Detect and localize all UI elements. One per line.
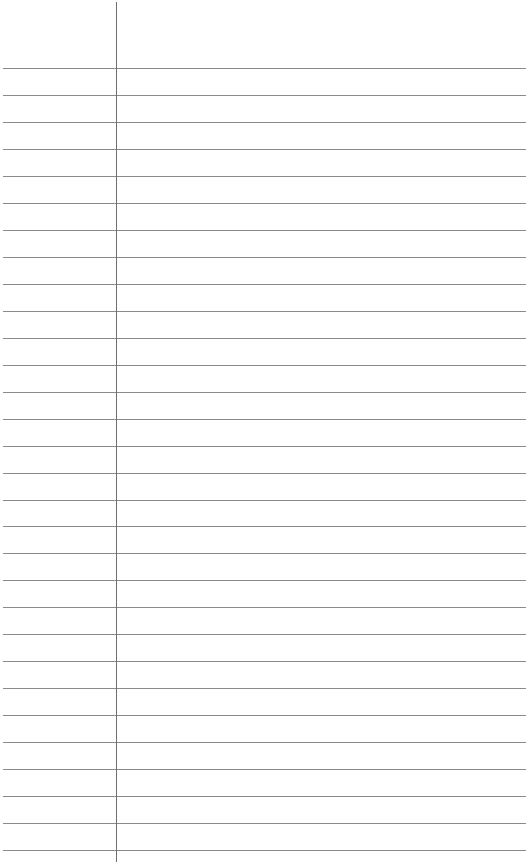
ruled-line (3, 365, 526, 366)
ruled-line (3, 661, 526, 662)
ruled-line (3, 338, 526, 339)
ruled-line (3, 419, 526, 420)
ruled-line (3, 311, 526, 312)
lined-paper (0, 0, 528, 865)
ruled-line (3, 796, 526, 797)
ruled-line (3, 769, 526, 770)
margin-line (116, 2, 117, 862)
ruled-line (3, 580, 526, 581)
ruled-line (3, 284, 526, 285)
ruled-line (3, 473, 526, 474)
ruled-line (3, 68, 526, 69)
ruled-line (3, 257, 526, 258)
ruled-line (3, 715, 526, 716)
ruled-line (3, 446, 526, 447)
ruled-line (3, 634, 526, 635)
ruled-line (3, 607, 526, 608)
ruled-line (3, 392, 526, 393)
ruled-line (3, 230, 526, 231)
ruled-line (3, 95, 526, 96)
ruled-line (3, 122, 526, 123)
ruled-line (3, 553, 526, 554)
ruled-line (3, 850, 526, 851)
ruled-line (3, 176, 526, 177)
ruled-line (3, 688, 526, 689)
ruled-line (3, 203, 526, 204)
ruled-line (3, 823, 526, 824)
ruled-line (3, 149, 526, 150)
ruled-line (3, 526, 526, 527)
ruled-line (3, 500, 526, 501)
ruled-line (3, 742, 526, 743)
